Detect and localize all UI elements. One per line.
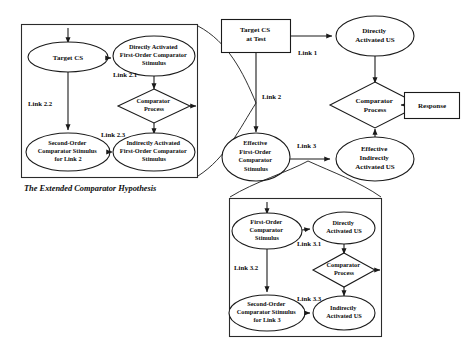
bottom-link-3-1-label: Link 3.1 xyxy=(297,240,322,247)
main-node-response-label: Response xyxy=(418,102,446,110)
main-link-2-label: Link 2 xyxy=(262,93,282,100)
left-link-2-3-label: Link 2.3 xyxy=(101,131,126,138)
bottom-node-indirectly-activated-us-label: Indirectly Activated US xyxy=(326,304,362,319)
left-link-2-1-label: Link 2.1 xyxy=(113,71,138,78)
bottom-edge-link-3-1 xyxy=(302,229,310,230)
main-node-effective-indirectly-activated-us-label: Effective Indirectly Activated US xyxy=(355,145,395,171)
left-node-target-cs-label: Target CS xyxy=(53,53,83,61)
figure-canvas: Target CS Directly Activated First-Order… xyxy=(0,0,466,357)
bottom-link-3-2-label: Link 3.2 xyxy=(234,264,259,271)
main-link-1-label: Link 1 xyxy=(298,49,318,56)
left-link-2-2-label: Link 2.2 xyxy=(28,100,53,107)
extended-comparator-hypothesis-diagram: Target CS Directly Activated First-Order… xyxy=(0,0,466,357)
bottom-link-3-3-label: Link 3.3 xyxy=(297,295,322,302)
main-link-3-label: Link 3 xyxy=(297,142,317,149)
figure-caption: The Extended Comparator Hypothesis xyxy=(24,184,156,193)
